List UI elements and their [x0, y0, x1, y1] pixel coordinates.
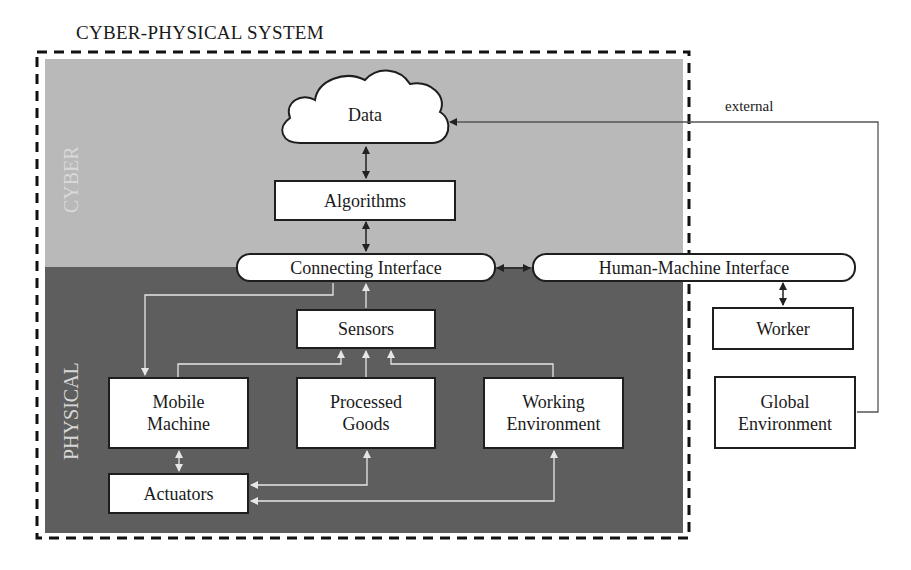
node-algorithms-label: Algorithms: [324, 190, 406, 212]
node-global-environment: Global Environment: [714, 376, 856, 449]
node-human-machine-interface: Human-Machine Interface: [532, 253, 856, 282]
node-connecting-interface: Connecting Interface: [236, 253, 496, 282]
node-processed-goods-line2: Goods: [342, 413, 389, 435]
node-mobile-machine-line1: Mobile: [153, 391, 205, 413]
node-global-environment-line2: Environment: [738, 413, 832, 435]
node-sensors-label: Sensors: [338, 318, 394, 340]
node-working-environment: Working Environment: [483, 377, 624, 449]
node-worker-label: Worker: [756, 318, 810, 340]
node-hmi-label: Human-Machine Interface: [599, 257, 789, 279]
node-worker: Worker: [712, 307, 854, 350]
node-actuators-label: Actuators: [144, 483, 214, 505]
node-connecting-interface-label: Connecting Interface: [290, 257, 441, 279]
node-working-environment-line2: Environment: [507, 413, 601, 435]
node-processed-goods-line1: Processed: [330, 391, 402, 413]
node-global-environment-line1: Global: [761, 391, 810, 413]
node-actuators: Actuators: [108, 473, 249, 514]
node-sensors: Sensors: [296, 309, 436, 349]
node-mobile-machine: Mobile Machine: [108, 377, 249, 449]
node-processed-goods: Processed Goods: [296, 377, 436, 449]
node-data: Data: [280, 90, 450, 140]
node-mobile-machine-line2: Machine: [147, 413, 210, 435]
edge-label-external: external: [725, 98, 773, 115]
node-algorithms: Algorithms: [274, 180, 456, 221]
node-working-environment-line1: Working: [522, 391, 585, 413]
